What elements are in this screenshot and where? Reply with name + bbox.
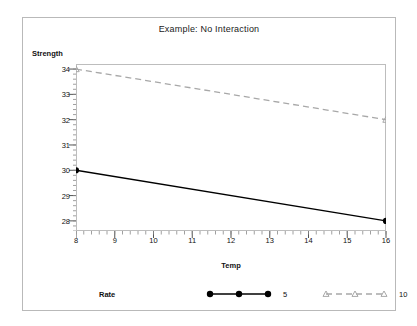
x-tick-label: 16 bbox=[374, 236, 398, 245]
y-tick-label: 28 bbox=[44, 216, 70, 225]
legend-label-series-5: 5 bbox=[283, 290, 287, 299]
x-tick-label: 10 bbox=[142, 236, 166, 245]
series-canvas bbox=[76, 64, 386, 231]
y-tick-label: 31 bbox=[44, 140, 70, 149]
y-tick-label: 33 bbox=[44, 90, 70, 99]
chart-figure: Example: No Interaction Strength 2829303… bbox=[0, 0, 417, 326]
plot-area bbox=[76, 64, 386, 231]
y-tick-label: 32 bbox=[44, 115, 70, 124]
series-5-marker-end bbox=[383, 218, 386, 224]
x-tick-label: 8 bbox=[64, 236, 88, 245]
x-tick-label: 15 bbox=[335, 236, 359, 245]
legend-title: Rate bbox=[99, 290, 115, 299]
x-tick-label: 9 bbox=[103, 236, 127, 245]
legend-swatch-series-10 bbox=[320, 288, 390, 300]
series-10-group bbox=[76, 66, 386, 122]
y-tick-label: 30 bbox=[44, 166, 70, 175]
legend-swatch-series-5 bbox=[204, 288, 274, 300]
legend-label-series-10: 10 bbox=[399, 290, 407, 299]
x-tick-label: 12 bbox=[219, 236, 243, 245]
chart-title: Example: No Interaction bbox=[22, 24, 396, 34]
legend: Rate 5 10 bbox=[76, 286, 386, 304]
series-5-group bbox=[76, 167, 386, 224]
x-tick-label: 14 bbox=[297, 236, 321, 245]
y-axis-label: Strength bbox=[32, 49, 63, 58]
x-tick-label: 11 bbox=[180, 236, 204, 245]
series-5-line bbox=[76, 170, 386, 221]
series-10-line bbox=[76, 69, 386, 120]
y-tick-label: 29 bbox=[44, 191, 70, 200]
y-tick-label-group: 28293031323334 bbox=[42, 64, 70, 231]
x-tick-label: 13 bbox=[258, 236, 282, 245]
x-tick-label-group: 8910111213141516 bbox=[76, 236, 386, 250]
x-axis-label: Temp bbox=[76, 261, 386, 270]
y-tick-label: 34 bbox=[44, 65, 70, 74]
